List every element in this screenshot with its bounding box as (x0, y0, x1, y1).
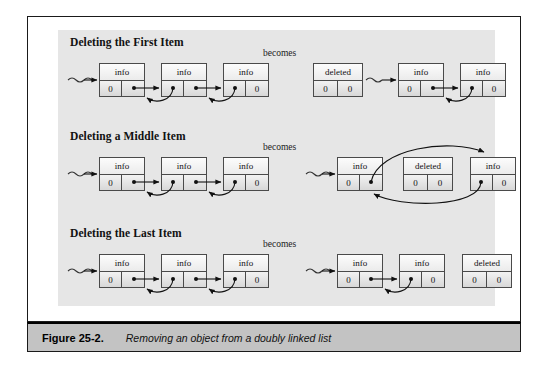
node-before-1-last: info 0 (99, 254, 145, 288)
node-next-cell (122, 81, 144, 96)
node-before-1-middle: info 0 (99, 157, 145, 191)
node-prev-cell (471, 175, 493, 190)
node-before-2-middle: info (161, 157, 207, 191)
node-after-3-middle: info 0 (470, 157, 516, 191)
node-next-cell (122, 272, 144, 287)
node-pointer-row: 0 (471, 175, 515, 190)
node-after-deleted-first: deleted 0 0 (313, 63, 363, 97)
section-title-last: Deleting the Last Item (70, 227, 182, 239)
node-pointer-row: 0 (100, 81, 144, 96)
node-after-deleted-middle: deleted 0 0 (403, 157, 453, 191)
node-info-label: info (400, 255, 444, 272)
node-prev-cell (461, 81, 483, 96)
node-before-2-last: info (161, 254, 207, 288)
node-pointer-row: 0 (399, 81, 443, 96)
node-pointer-row: 0 (461, 81, 505, 96)
node-next-cell (122, 175, 144, 190)
node-next-cell: 0 (246, 272, 268, 287)
node-prev-cell: 0 (100, 272, 122, 287)
node-before-3-last: info 0 (223, 254, 269, 288)
node-info-label: info (338, 255, 382, 272)
node-before-3-middle: info 0 (223, 157, 269, 191)
node-prev-cell: 0 (314, 81, 338, 96)
node-after-1-last: info 0 (337, 254, 383, 288)
node-prev-cell: 0 (404, 175, 428, 190)
node-next-cell (184, 81, 206, 96)
node-next-cell: 0 (246, 175, 268, 190)
node-after-3-first: info 0 (460, 63, 506, 97)
node-pointer-row: 0 0 (314, 81, 362, 96)
node-before-3-first: info 0 (223, 63, 269, 97)
node-next-cell (360, 272, 382, 287)
node-pointer-row: 0 0 (404, 175, 452, 190)
node-next-cell: 0 (487, 272, 511, 287)
node-prev-cell (224, 272, 246, 287)
node-info-label: info (162, 64, 206, 81)
node-pointer-row: 0 (100, 175, 144, 190)
node-pointer-row (162, 175, 206, 190)
node-after-2-last: info 0 (399, 254, 445, 288)
section-title-middle: Deleting a Middle Item (70, 130, 186, 142)
node-after-1-middle: info 0 (337, 157, 383, 191)
node-prev-cell: 0 (399, 81, 421, 96)
node-next-cell (360, 175, 382, 190)
node-info-label: info (100, 158, 144, 175)
node-pointer-row: 0 (400, 272, 444, 287)
node-info-label: info (162, 158, 206, 175)
node-pointer-row (162, 81, 206, 96)
node-next-cell (184, 175, 206, 190)
node-prev-cell (400, 272, 422, 287)
node-prev-cell: 0 (100, 81, 122, 96)
node-deleted-label: deleted (404, 158, 452, 175)
node-prev-cell: 0 (338, 175, 360, 190)
node-info-label: info (162, 255, 206, 272)
node-info-label: info (471, 158, 515, 175)
node-before-1-first: info 0 (99, 63, 145, 97)
becomes-label-first: becomes (263, 48, 296, 58)
node-info-label: info (461, 64, 505, 81)
node-info-label: info (224, 255, 268, 272)
node-prev-cell (162, 175, 184, 190)
node-next-cell: 0 (493, 175, 515, 190)
node-pointer-row: 0 (224, 81, 268, 96)
node-prev-cell: 0 (100, 175, 122, 190)
node-pointer-row: 0 (100, 272, 144, 287)
node-info-label: info (100, 64, 144, 81)
becomes-label-middle: becomes (263, 142, 296, 152)
node-pointer-row: 0 (224, 175, 268, 190)
figure-caption-text: Removing an object from a doubly linked … (126, 332, 331, 344)
node-before-2-first: info (161, 63, 207, 97)
node-next-cell: 0 (246, 81, 268, 96)
node-pointer-row (162, 272, 206, 287)
node-info-label: info (399, 64, 443, 81)
node-pointer-row: 0 (338, 175, 382, 190)
node-info-label: info (338, 158, 382, 175)
becomes-label-last: becomes (263, 239, 296, 249)
node-prev-cell (224, 175, 246, 190)
node-info-label: info (224, 64, 268, 81)
node-info-label: info (100, 255, 144, 272)
figure-number: Figure 25-2. (42, 332, 104, 344)
node-prev-cell (224, 81, 246, 96)
section-title-first: Deleting the First Item (70, 36, 184, 48)
node-pointer-row: 0 (224, 272, 268, 287)
node-next-cell (184, 272, 206, 287)
node-next-cell: 0 (422, 272, 444, 287)
node-prev-cell: 0 (463, 272, 487, 287)
node-info-label: info (224, 158, 268, 175)
node-next-cell (421, 81, 443, 96)
node-next-cell: 0 (338, 81, 362, 96)
node-pointer-row: 0 0 (463, 272, 511, 287)
figure-caption-bar: Figure 25-2. Removing an object from a d… (27, 322, 521, 352)
node-next-cell: 0 (428, 175, 452, 190)
node-prev-cell (162, 81, 184, 96)
node-after-2-first: info 0 (398, 63, 444, 97)
node-deleted-label: deleted (463, 255, 511, 272)
figure-root: Deleting the First Item becomes info 0 i… (0, 0, 549, 369)
node-prev-cell (162, 272, 184, 287)
node-prev-cell: 0 (338, 272, 360, 287)
node-next-cell: 0 (483, 81, 505, 96)
node-after-deleted-last: deleted 0 0 (462, 254, 512, 288)
node-pointer-row: 0 (338, 272, 382, 287)
node-deleted-label: deleted (314, 64, 362, 81)
